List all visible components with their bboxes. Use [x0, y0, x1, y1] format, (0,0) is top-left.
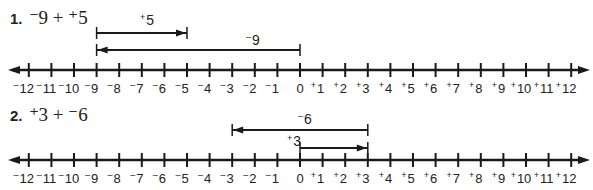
- tick-label: –7: [130, 170, 143, 186]
- tick-label: –8: [108, 170, 121, 186]
- tick-label: –2: [243, 170, 256, 186]
- tick-label: +10: [511, 170, 532, 186]
- tick-label: +9: [492, 170, 506, 186]
- tick-label: +7: [446, 80, 460, 96]
- problem-1-number-line: –12–11–10–9–8–7–6–5–4–3–2–10+1+2+3+4+5+6…: [8, 12, 590, 96]
- tick-label: –10: [59, 170, 79, 186]
- vector-label: +5: [140, 12, 154, 28]
- tick-label: –1: [266, 80, 279, 96]
- tick-label: –1: [266, 170, 279, 186]
- tick-label: –5: [175, 80, 188, 96]
- arrow-left-icon: [8, 66, 20, 74]
- arrow-right-icon: [578, 156, 590, 164]
- tick-label: +1: [311, 80, 325, 96]
- tick-label: +8: [469, 170, 483, 186]
- tick-label: –10: [59, 80, 79, 96]
- tick-label: +6: [424, 80, 438, 96]
- tick-label: 0: [296, 81, 303, 96]
- tick-label: +11: [534, 80, 554, 96]
- tick-label: –7: [130, 80, 143, 96]
- tick-label: +12: [556, 170, 577, 186]
- tick-label: –3: [221, 80, 234, 96]
- tick-label: +4: [379, 170, 393, 186]
- tick-label: –5: [175, 170, 188, 186]
- tick-label: +3: [356, 170, 370, 186]
- tick-label: +5: [401, 170, 415, 186]
- vector-pos5: +5: [97, 12, 187, 39]
- tick-label: +2: [333, 80, 347, 96]
- tick-label: +9: [492, 80, 506, 96]
- arrow-right-icon: [578, 66, 590, 74]
- tick-label: –6: [153, 170, 166, 186]
- tick-label: +4: [379, 80, 393, 96]
- tick-label: +12: [556, 80, 577, 96]
- vector-label: –9: [246, 32, 260, 48]
- tick-label: –12: [14, 80, 34, 96]
- tick-label: –12: [14, 170, 34, 186]
- vector-pos3: +3: [287, 133, 368, 154]
- tick-label: +8: [469, 80, 483, 96]
- tick-label: +7: [446, 170, 460, 186]
- tick-label: +11: [534, 170, 554, 186]
- tick-label: –2: [243, 80, 256, 96]
- tick-label: +6: [424, 170, 438, 186]
- vector-neg9: –9: [97, 32, 300, 56]
- tick-label: +3: [356, 80, 370, 96]
- tick-label: +2: [333, 170, 347, 186]
- number-line-diagram: –12–11–10–9–8–7–6–5–4–3–2–10+1+2+3+4+5+6…: [0, 0, 593, 190]
- problem-2-number-line: –12–11–10–9–8–7–6–5–4–3–2–10+1+2+3+4+5+6…: [8, 111, 590, 186]
- tick-label: –8: [108, 80, 121, 96]
- tick-label: –4: [198, 170, 211, 186]
- vector-arrowhead-icon: [233, 127, 243, 134]
- tick-label: +1: [311, 170, 325, 186]
- vector-label: –6: [298, 111, 312, 127]
- tick-label: 0: [296, 171, 303, 186]
- vector-arrowhead-icon: [176, 30, 186, 37]
- tick-label: +5: [401, 80, 415, 96]
- tick-label: –4: [198, 80, 211, 96]
- tick-label: –6: [153, 80, 166, 96]
- tick-label: –11: [37, 80, 57, 96]
- vector-arrowhead-icon: [357, 145, 367, 152]
- arrow-left-icon: [8, 156, 20, 164]
- tick-label: +10: [511, 80, 532, 96]
- tick-label: –11: [37, 170, 57, 186]
- vector-label: +3: [287, 133, 301, 149]
- vector-arrowhead-icon: [98, 47, 108, 54]
- tick-label: –3: [221, 170, 234, 186]
- tick-label: –9: [85, 170, 98, 186]
- tick-label: –9: [85, 80, 98, 96]
